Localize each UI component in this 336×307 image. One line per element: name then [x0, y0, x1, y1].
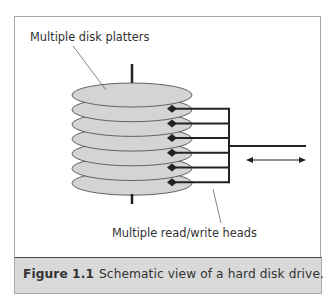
platters-leader-line	[73, 46, 106, 90]
platters-label: Multiple disk platters	[30, 30, 149, 44]
caption-text: Schematic view of a hard disk drive.	[99, 267, 324, 281]
figure-number: Figure 1.1	[23, 267, 94, 281]
caption-bar: Figure 1.1Schematic view of a hard disk …	[14, 257, 322, 294]
heads-label: Multiple read/write heads	[112, 226, 257, 240]
disk-platter	[72, 83, 192, 107]
motion-arrow	[246, 157, 306, 163]
heads-leader-line	[213, 189, 221, 223]
figure-caption: Figure 1.1Schematic view of a hard disk …	[23, 267, 324, 281]
